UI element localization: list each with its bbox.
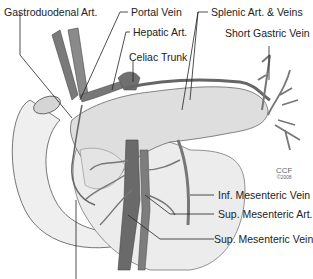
label-celiac-trunk: Celiac Trunk: [129, 51, 187, 63]
label-splenic-art-veins: Splenic Art. & Veins: [211, 6, 303, 18]
label-sup-mesenteric-art: Sup. Mesenteric Art.: [218, 208, 313, 220]
label-sup-mesenteric-vein: Sup. Mesenteric Vein: [214, 233, 313, 245]
label-gastroduodenal-art: Gastroduodenal Art.: [4, 6, 97, 18]
credit-year: ©2008: [276, 174, 292, 181]
label-inf-mesenteric-vein: Inf. Mesenteric Vein: [218, 189, 310, 201]
credit: CCF ©2008: [276, 167, 292, 181]
label-portal-vein: Portal Vein: [131, 6, 182, 18]
anatomy-diagram: Gastroduodenal Art. Portal Vein Hepatic …: [0, 0, 313, 279]
credit-org: CCF: [276, 167, 292, 174]
label-hepatic-art: Hepatic Art.: [133, 26, 187, 38]
label-short-gastric-vein: Short Gastric Vein: [225, 27, 310, 39]
